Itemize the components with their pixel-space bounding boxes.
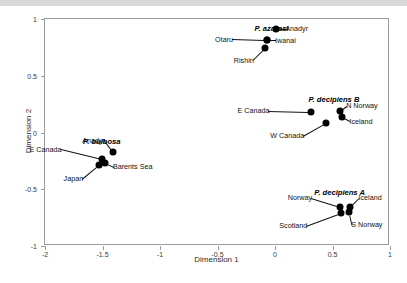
data-point[interactable] [273, 25, 280, 32]
point-label: Iceland [349, 118, 372, 125]
point-label: Anadyr [285, 25, 308, 32]
y-tick-label: 0.5 [27, 72, 37, 79]
x-tick [390, 246, 391, 250]
x-tick [218, 246, 219, 250]
leader-line [279, 29, 286, 30]
y-axis-title: Dimension 2 [24, 109, 33, 153]
y-tick-label: 0 [33, 129, 37, 136]
data-point[interactable] [308, 108, 315, 115]
x-tick [333, 246, 334, 250]
x-axis-title: Dimension 1 [44, 255, 389, 264]
data-point[interactable] [264, 37, 271, 44]
point-label: Barents Sea [113, 163, 153, 170]
data-point[interactable] [338, 209, 345, 216]
data-point[interactable] [339, 114, 346, 121]
point-label: Iwanai [275, 37, 296, 44]
x-tick [45, 246, 46, 250]
scatter-plot-figure: -2-1.5-1-0.500.51-1-0.500.51 P. azarasiA… [0, 6, 407, 283]
data-point[interactable] [96, 161, 103, 168]
x-tick [275, 246, 276, 250]
y-tick-label: -1 [31, 243, 37, 250]
point-label: E Canada [30, 146, 62, 153]
y-tick [41, 246, 45, 247]
point-label: N Norway [346, 102, 378, 109]
point-label: Anadyr [82, 137, 105, 144]
y-tick-label: 1 [33, 16, 37, 23]
point-label: Iceland [358, 194, 381, 201]
point-label: Otaru [215, 36, 233, 43]
y-tick-label: -0.5 [25, 186, 37, 193]
point-label: Rishiri [234, 57, 254, 64]
data-point[interactable] [346, 208, 353, 215]
x-tick [103, 246, 104, 250]
y-tick [41, 76, 45, 77]
y-tick [41, 19, 45, 20]
x-tick [160, 246, 161, 250]
point-label: W Canada [270, 132, 304, 139]
point-label: Norway [288, 194, 312, 201]
group-label: P. decipiens A [314, 189, 365, 197]
point-label: E Canada [237, 107, 269, 114]
y-tick [41, 189, 45, 190]
data-point[interactable] [323, 119, 330, 126]
point-label: S Norway [351, 221, 382, 228]
data-point[interactable] [261, 45, 268, 52]
data-point[interactable] [110, 149, 117, 156]
point-label: Japan [64, 175, 84, 182]
point-label: Scotland [279, 222, 307, 229]
leader-line [270, 40, 276, 41]
y-tick [41, 133, 45, 134]
